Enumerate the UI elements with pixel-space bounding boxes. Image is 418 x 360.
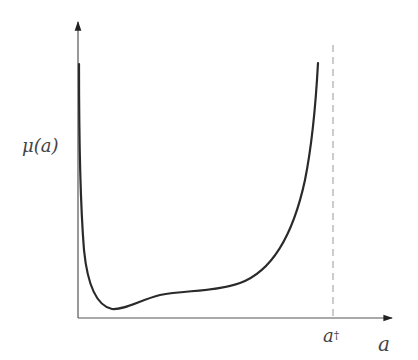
x-axis-label: a: [378, 332, 390, 356]
y-axis-label: μ(a): [22, 135, 58, 156]
a-dagger-label: a†: [323, 325, 340, 346]
mortality-curve-diagram: μ(a) a a†: [0, 0, 418, 360]
mu-curve: [79, 63, 318, 309]
